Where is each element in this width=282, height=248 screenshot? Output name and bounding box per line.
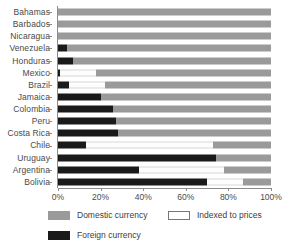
bar-segment-domestic-currency (67, 45, 271, 52)
legend-swatch-foreign-icon (48, 231, 70, 240)
x-axis-tick (58, 188, 59, 191)
bar-row (58, 42, 271, 54)
bar-segment-indexed-to-prices (86, 142, 214, 149)
bar-track (58, 118, 271, 125)
y-axis-tick (49, 146, 52, 147)
legend-label-domestic: Domestic currency (77, 210, 147, 220)
bar-row (58, 55, 271, 67)
bar-segment-domestic-currency (58, 33, 271, 40)
x-axis-tick-label: 40% (135, 192, 152, 202)
bar-segment-domestic-currency (116, 118, 271, 125)
bar-track (58, 33, 271, 40)
bar-row (58, 115, 271, 127)
y-axis-tick (49, 61, 52, 62)
bar-row (58, 6, 271, 18)
bar-track (58, 81, 271, 88)
bar-row (58, 103, 271, 115)
legend-label-foreign: Foreign currency (77, 230, 141, 240)
x-axis-tick (186, 188, 187, 191)
bar-segment-domestic-currency (73, 57, 271, 64)
x-axis-line (58, 188, 271, 189)
x-axis-tick (271, 188, 272, 191)
legend-item-indexed-to-prices: Indexed to prices (168, 210, 262, 220)
legend-label-indexed: Indexed to prices (197, 210, 262, 220)
y-axis-tick (49, 109, 52, 110)
bar-segment-indexed-to-prices (69, 81, 105, 88)
bar-segment-domestic-currency (216, 154, 271, 161)
bar-row (58, 164, 271, 176)
y-axis-tick (49, 24, 52, 25)
bar-row (58, 18, 271, 30)
bar-row (58, 139, 271, 151)
y-axis-tick (49, 182, 52, 183)
x-axis-tick-label: 20% (92, 192, 109, 202)
y-axis-label: Honduras (0, 55, 52, 67)
bar-segment-foreign-currency (58, 142, 86, 149)
y-axis-label: Bolivia (0, 176, 52, 188)
bar-track (58, 106, 271, 113)
y-axis-label: Costa Rica (0, 127, 52, 139)
bar-segment-foreign-currency (58, 130, 118, 137)
bar-row (58, 30, 271, 42)
y-axis-tick (49, 73, 52, 74)
y-axis-tick (49, 85, 52, 86)
y-axis-label: Colombia (0, 103, 52, 115)
bar-segment-foreign-currency (58, 57, 73, 64)
x-axis-tick (101, 188, 102, 191)
bar-row (58, 79, 271, 91)
y-axis-label: Chile (0, 139, 52, 151)
bar-track (58, 166, 271, 173)
bar-track (58, 21, 271, 28)
bar-segment-foreign-currency (58, 166, 139, 173)
y-axis-tick (49, 121, 52, 122)
bar-segment-foreign-currency (58, 118, 116, 125)
bar-segment-domestic-currency (96, 69, 271, 76)
bar-row (58, 152, 271, 164)
chart-legend: Domestic currency Indexed to prices Fore… (0, 208, 282, 248)
bar-segment-domestic-currency (213, 142, 271, 149)
bar-track (58, 130, 271, 137)
bar-segment-foreign-currency (58, 45, 67, 52)
y-axis-label: Uruguay (0, 152, 52, 164)
bar-segment-domestic-currency (243, 178, 271, 185)
bar-track (58, 57, 271, 64)
y-axis-label: Venezuela (0, 42, 52, 54)
legend-swatch-domestic-icon (48, 211, 70, 220)
y-axis-label: Bahamas (0, 6, 52, 18)
bar-segment-foreign-currency (58, 178, 207, 185)
bar-rows (58, 6, 271, 188)
bar-segment-foreign-currency (58, 93, 101, 100)
y-axis-label: Mexico (0, 67, 52, 79)
y-axis-label: Barbados (0, 18, 52, 30)
bar-segment-domestic-currency (58, 9, 271, 16)
x-axis-tick-label: 0% (52, 192, 64, 202)
bar-track (58, 154, 271, 161)
bar-row (58, 127, 271, 139)
bar-track (58, 142, 271, 149)
bar-segment-indexed-to-prices (60, 69, 96, 76)
bar-row (58, 67, 271, 79)
y-axis-tick (49, 170, 52, 171)
y-axis-tick (49, 158, 52, 159)
y-axis-tick (49, 48, 52, 49)
bar-segment-domestic-currency (118, 130, 271, 137)
bar-track (58, 45, 271, 52)
stacked-bar-chart: BahamasBarbadosNicaraguaVenezuelaHondura… (0, 0, 282, 248)
bar-row (58, 91, 271, 103)
legend-swatch-indexed-icon (168, 211, 190, 220)
y-axis-tick (49, 97, 52, 98)
y-axis-label: Nicaragua (0, 30, 52, 42)
bar-segment-indexed-to-prices (139, 166, 224, 173)
bar-segment-domestic-currency (58, 21, 271, 28)
bar-segment-foreign-currency (58, 81, 69, 88)
y-axis-labels: BahamasBarbadosNicaraguaVenezuelaHondura… (0, 6, 52, 188)
y-axis-label: Jamaica (0, 91, 52, 103)
bar-track (58, 9, 271, 16)
x-axis-tick (228, 188, 229, 191)
legend-item-foreign-currency: Foreign currency (48, 230, 141, 240)
bar-segment-domestic-currency (105, 81, 271, 88)
bar-segment-foreign-currency (58, 106, 113, 113)
x-axis-tick-label: 100% (260, 192, 282, 202)
bar-segment-domestic-currency (224, 166, 271, 173)
x-axis-tick-label: 60% (177, 192, 194, 202)
